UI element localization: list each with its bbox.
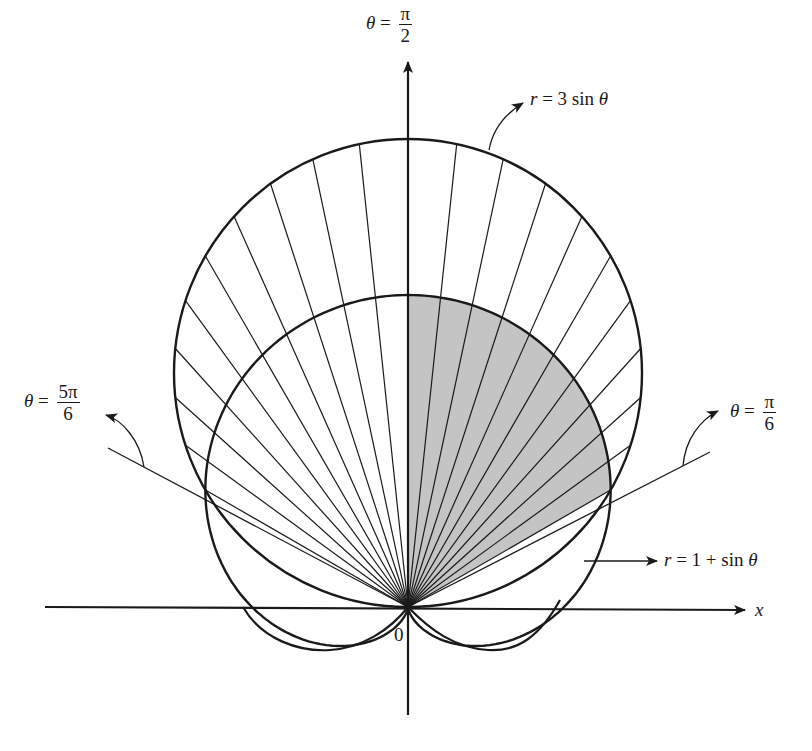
equation-text: = 3 sin [537,88,598,109]
equals-sign: = [380,12,391,33]
pointer-arrow-pi6 [683,411,718,466]
theta-symbol: θ [599,88,608,109]
label-outer-curve: r = 3 sin θ [530,88,608,110]
equals-sign: = [744,400,755,421]
fraction-denominator: 6 [57,403,80,423]
radial-line [205,256,408,607]
lower-right-loop [408,600,560,650]
shaded-region [408,295,611,607]
radial-line [359,144,408,607]
fraction-denominator: 2 [399,25,413,45]
theta-symbol: θ [748,549,757,570]
fraction-numerator: π [399,4,413,25]
radial-line [186,445,409,607]
polar-diagram [0,0,812,751]
pointer-arrow-5pi6 [106,415,144,467]
equation-text: = 1 + sin [671,549,748,570]
radial-line [313,159,408,607]
label-inner-curve: r = 1 + sin θ [664,549,758,571]
theta-symbol: θ [730,400,739,421]
label-theta-5pi-over-6: θ = 5π6 [24,382,80,423]
theta-symbol: θ [366,12,375,33]
x-axis-label: x [755,599,763,621]
fraction-numerator: π [763,392,777,413]
fraction-denominator: 6 [763,413,777,433]
radial-line [175,349,408,608]
label-theta-pi-over-2: θ = π2 [366,4,412,45]
theta-symbol: θ [24,390,33,411]
pointer-arrow-outer [489,103,523,150]
radial-line [186,301,409,607]
equals-sign: = [38,390,49,411]
radial-line [234,216,408,607]
x-axis [45,607,745,610]
radial-line [271,184,409,607]
origin-label: 0 [394,624,404,646]
label-theta-pi-over-6: θ = π6 [730,392,776,433]
shaded-area [408,295,611,607]
fraction-numerator: 5π [57,382,80,403]
